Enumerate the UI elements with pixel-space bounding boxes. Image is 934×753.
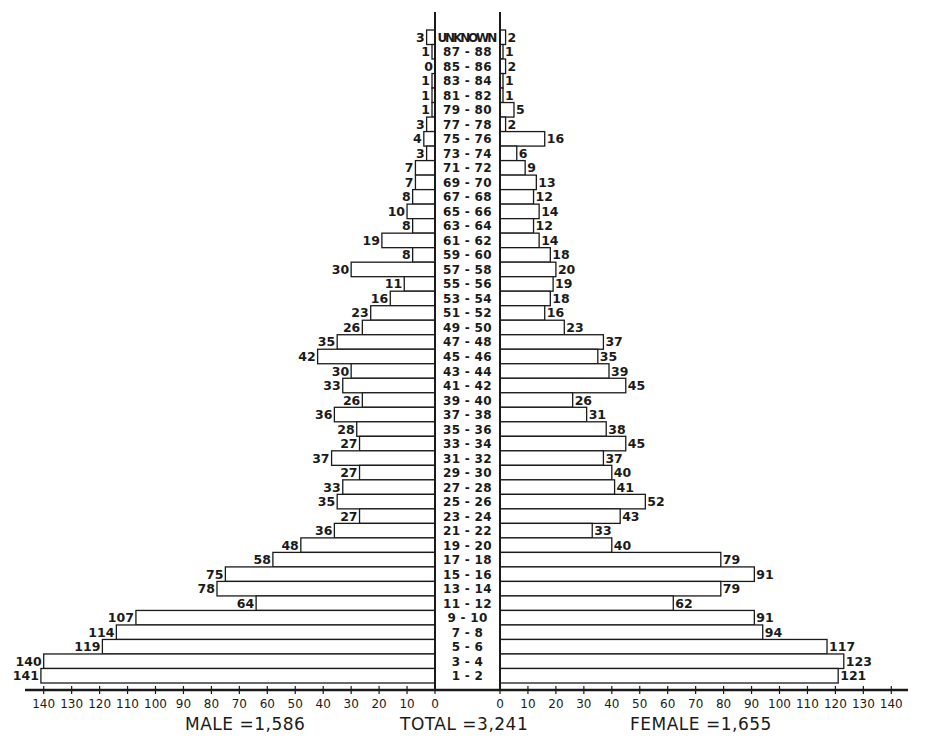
male-value-label: 1 bbox=[421, 44, 430, 59]
female-bar bbox=[500, 277, 553, 292]
age-group-label: 47 - 48 bbox=[443, 335, 492, 349]
male-bar bbox=[390, 291, 435, 306]
age-group-label: 1 - 2 bbox=[452, 669, 484, 683]
male-value-label: 27 bbox=[340, 509, 357, 524]
male-value-label: 4 bbox=[413, 131, 422, 146]
female-value-label: 121 bbox=[840, 668, 866, 683]
female-value-label: 117 bbox=[829, 639, 855, 654]
age-group-label: 29 - 30 bbox=[443, 466, 492, 480]
male-tick-label: 110 bbox=[116, 697, 139, 711]
female-bar bbox=[500, 538, 612, 553]
female-value-label: 1 bbox=[505, 88, 514, 103]
male-value-label: 7 bbox=[405, 175, 414, 190]
age-group-label: 81 - 82 bbox=[443, 89, 492, 103]
female-value-label: 14 bbox=[541, 204, 559, 219]
population-pyramid-chart: UNKNOWN87 - 8885 - 8683 - 8481 - 8279 - … bbox=[0, 0, 934, 753]
male-tick-label: 100 bbox=[144, 697, 167, 711]
female-bar bbox=[500, 610, 754, 625]
male-value-label: 27 bbox=[340, 436, 357, 451]
male-bar bbox=[44, 654, 435, 669]
female-value-label: 9 bbox=[527, 160, 536, 175]
male-value-label: 36 bbox=[315, 523, 333, 538]
female-value-label: 33 bbox=[594, 523, 611, 538]
age-group-label: UNKNOWN bbox=[438, 31, 498, 45]
female-bar bbox=[500, 219, 534, 234]
female-tick-label: 10 bbox=[520, 697, 535, 711]
age-group-label: 87 - 88 bbox=[443, 45, 492, 59]
female-value-label: 31 bbox=[589, 407, 606, 422]
female-bar bbox=[500, 190, 534, 205]
age-group-label: 77 - 78 bbox=[443, 118, 492, 132]
age-group-label: 59 - 60 bbox=[443, 248, 492, 262]
male-value-label: 27 bbox=[340, 465, 357, 480]
female-tick-label: 120 bbox=[824, 697, 847, 711]
male-bar bbox=[427, 30, 435, 45]
age-group-label: 19 - 20 bbox=[443, 539, 492, 553]
male-value-label: 3 bbox=[416, 146, 425, 161]
male-bar bbox=[413, 219, 435, 234]
female-bar bbox=[500, 161, 525, 176]
male-tick-label: 90 bbox=[176, 697, 191, 711]
female-value-label: 5 bbox=[516, 102, 525, 117]
female-value-label: 20 bbox=[558, 262, 576, 277]
female-bar bbox=[500, 349, 598, 364]
female-bar bbox=[500, 567, 754, 582]
male-value-label: 141 bbox=[13, 668, 39, 683]
male-total-label: MALE =1,586 bbox=[185, 714, 305, 734]
female-value-label: 45 bbox=[628, 378, 645, 393]
female-value-label: 40 bbox=[614, 538, 632, 553]
female-bar bbox=[500, 523, 592, 538]
female-bar bbox=[500, 480, 615, 495]
age-group-label: 35 - 36 bbox=[443, 423, 492, 437]
male-bar bbox=[413, 190, 435, 205]
age-group-label: 85 - 86 bbox=[443, 60, 492, 74]
age-group-label: 65 - 66 bbox=[443, 205, 492, 219]
female-bar bbox=[500, 436, 626, 451]
female-value-label: 79 bbox=[723, 581, 740, 596]
female-value-label: 12 bbox=[536, 218, 553, 233]
male-bar bbox=[337, 335, 435, 350]
female-value-label: 23 bbox=[566, 320, 583, 335]
female-bar bbox=[500, 552, 721, 567]
male-tick-label: 50 bbox=[288, 697, 303, 711]
male-bar bbox=[360, 465, 435, 480]
male-value-label: 30 bbox=[332, 364, 350, 379]
male-value-label: 107 bbox=[108, 610, 134, 625]
male-bar bbox=[415, 175, 435, 190]
male-value-label: 3 bbox=[416, 117, 425, 132]
female-tick-label: 70 bbox=[688, 697, 703, 711]
female-bar bbox=[500, 204, 539, 219]
female-value-label: 1 bbox=[505, 73, 514, 88]
female-bar bbox=[500, 103, 514, 118]
female-value-label: 40 bbox=[614, 465, 632, 480]
female-bar bbox=[500, 422, 606, 437]
female-value-label: 18 bbox=[552, 247, 569, 262]
age-group-label: 31 - 32 bbox=[443, 452, 492, 466]
age-group-label: 3 - 4 bbox=[452, 655, 484, 669]
female-tick-label: 140 bbox=[880, 697, 903, 711]
female-value-label: 2 bbox=[508, 117, 517, 132]
male-bar bbox=[343, 480, 435, 495]
female-bar bbox=[500, 378, 626, 393]
age-group-label: 25 - 26 bbox=[443, 495, 492, 509]
male-tick-label: 130 bbox=[60, 697, 83, 711]
female-bar bbox=[500, 291, 550, 306]
male-value-label: 75 bbox=[206, 567, 223, 582]
female-total-label: FEMALE =1,655 bbox=[630, 714, 772, 734]
female-tick-label: 100 bbox=[768, 697, 791, 711]
female-bar bbox=[500, 596, 673, 611]
age-group-label: 7 - 8 bbox=[452, 626, 484, 640]
male-value-label: 33 bbox=[323, 480, 340, 495]
male-bar bbox=[404, 277, 435, 292]
female-tick-label: 130 bbox=[852, 697, 875, 711]
age-group-label: 17 - 18 bbox=[443, 553, 492, 567]
male-value-label: 11 bbox=[385, 276, 402, 291]
male-bar bbox=[424, 132, 435, 147]
female-value-label: 12 bbox=[536, 189, 553, 204]
male-value-label: 35 bbox=[318, 334, 335, 349]
age-group-label: 15 - 16 bbox=[443, 568, 492, 582]
age-group-label: 39 - 40 bbox=[443, 394, 492, 408]
female-bar bbox=[500, 262, 556, 277]
male-bar bbox=[225, 567, 435, 582]
female-tick-label: 50 bbox=[632, 697, 647, 711]
